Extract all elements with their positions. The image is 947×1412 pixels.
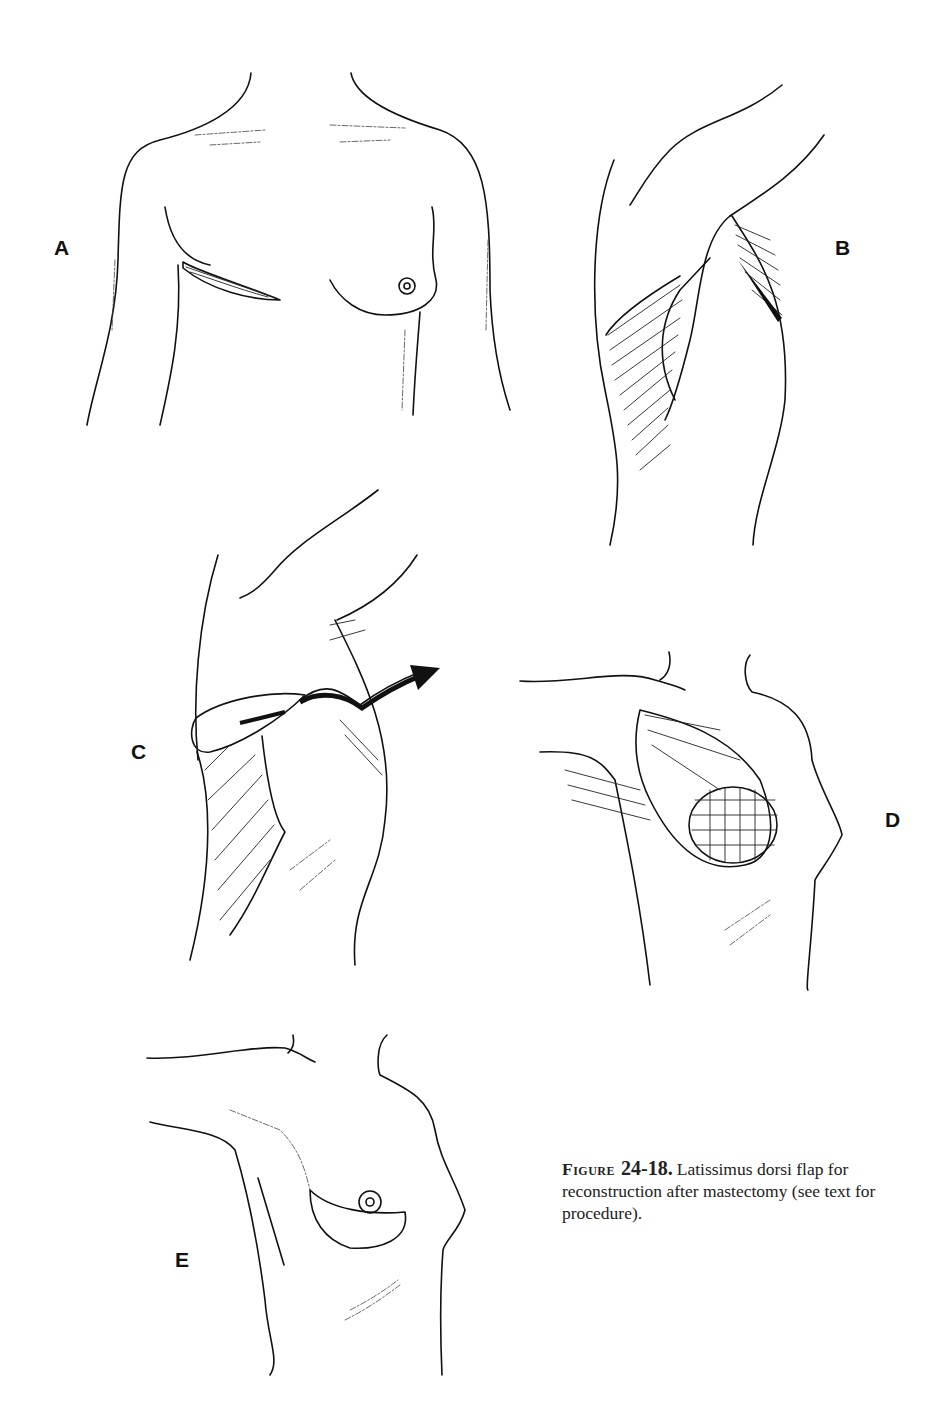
caption-figure-word: Figure [562, 1159, 615, 1179]
panel-b-drawing [595, 85, 824, 545]
panel-label-a: A [54, 236, 69, 260]
panel-d-drawing [520, 652, 842, 990]
figure-caption: Figure24-18.Latissimus dorsi flap for re… [562, 1157, 932, 1224]
panel-e-drawing [147, 1035, 465, 1375]
panel-label-c: C [131, 740, 146, 764]
panel-label-b: B [835, 236, 850, 260]
panel-label-e: E [175, 1248, 189, 1272]
panel-a-drawing [87, 73, 510, 425]
panel-label-d: D [885, 808, 900, 832]
panel-c-drawing [190, 490, 440, 965]
figure-page: A B C D E Figure24-18.Latissimus dorsi f… [0, 0, 947, 1412]
caption-figure-number: 24-18. [621, 1157, 673, 1179]
